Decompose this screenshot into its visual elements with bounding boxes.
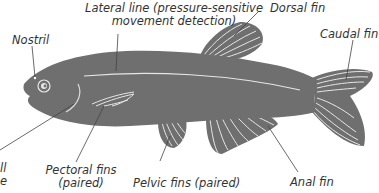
label-gill-clipped: ll e xyxy=(0,162,7,188)
fish-anatomy-diagram: Lateral line (pressure-sensitive movemen… xyxy=(0,0,379,193)
label-nostril: Nostril xyxy=(12,34,49,47)
pelvic-fin xyxy=(158,120,187,148)
label-anal-fin: Anal fin xyxy=(290,176,334,189)
label-dorsal-fin: Dorsal fin xyxy=(270,2,325,15)
caudal-fin xyxy=(312,69,373,146)
label-lateral-line: Lateral line (pressure-sensitive movemen… xyxy=(64,2,284,28)
label-pelvic-fins: Pelvic fins (paired) xyxy=(133,177,240,190)
label-caudal-fin: Caudal fin xyxy=(320,28,378,41)
nostril-dot xyxy=(34,77,36,79)
fish-body xyxy=(23,51,318,127)
label-pectoral-fins: Pectoral fins (paired) xyxy=(36,164,126,190)
